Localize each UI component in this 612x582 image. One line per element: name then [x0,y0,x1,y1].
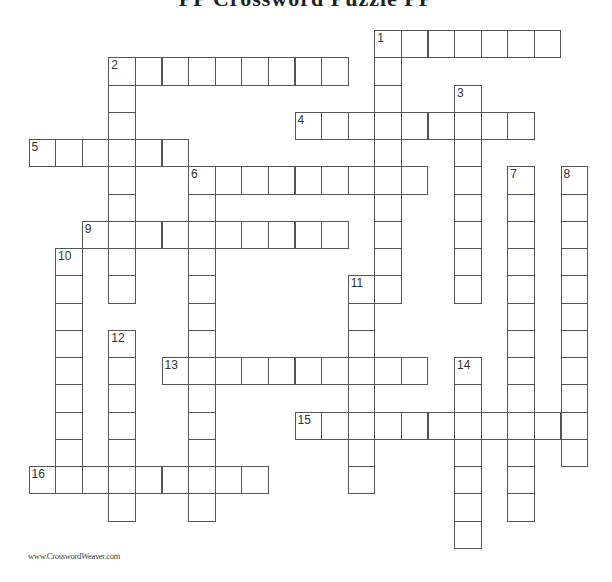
grid-cell[interactable] [82,139,110,167]
grid-cell[interactable] [401,412,429,440]
grid-cell[interactable] [454,139,482,167]
grid-cell[interactable] [348,412,376,440]
grid-cell[interactable] [374,221,402,249]
grid-cell[interactable] [561,248,589,276]
grid-cell[interactable] [561,412,589,440]
grid-cell[interactable] [108,166,136,194]
grid-cell[interactable] [268,166,296,194]
grid-cell[interactable] [135,57,163,85]
grid-cell[interactable] [507,275,535,303]
grid-cell[interactable] [428,112,456,140]
grid-cell[interactable] [108,466,136,494]
grid-cell[interactable] [561,357,589,385]
grid-cell[interactable]: 10 [55,248,83,276]
grid-cell[interactable] [561,330,589,358]
grid-cell[interactable] [268,221,296,249]
grid-cell[interactable] [295,166,323,194]
grid-cell[interactable] [268,57,296,85]
grid-cell[interactable] [401,30,429,58]
grid-cell[interactable] [454,221,482,249]
grid-cell[interactable] [162,139,190,167]
grid-cell[interactable] [401,112,429,140]
grid-cell[interactable] [507,330,535,358]
grid-cell[interactable] [454,493,482,521]
grid-cell[interactable] [188,357,216,385]
grid-cell[interactable] [561,384,589,412]
grid-cell[interactable] [507,221,535,249]
grid-cell[interactable] [348,439,376,467]
grid-cell[interactable] [108,275,136,303]
grid-cell[interactable] [534,30,562,58]
grid-cell[interactable] [55,275,83,303]
grid-cell[interactable] [55,466,83,494]
grid-cell[interactable] [401,357,429,385]
grid-cell[interactable] [108,412,136,440]
grid-cell[interactable] [108,139,136,167]
grid-cell[interactable] [348,166,376,194]
grid-cell[interactable] [188,439,216,467]
grid-cell[interactable] [321,357,349,385]
grid-cell[interactable] [507,493,535,521]
grid-cell[interactable] [55,412,83,440]
grid-cell[interactable] [188,493,216,521]
grid-cell[interactable] [108,112,136,140]
grid-cell[interactable] [507,248,535,276]
grid-cell[interactable] [454,30,482,58]
grid-cell[interactable] [295,57,323,85]
grid-cell[interactable] [454,112,482,140]
grid-cell[interactable] [454,521,482,549]
grid-cell[interactable]: 13 [162,357,190,385]
grid-cell[interactable] [215,221,243,249]
grid-cell[interactable] [241,221,269,249]
grid-cell[interactable] [374,412,402,440]
grid-cell[interactable] [188,248,216,276]
grid-cell[interactable] [162,466,190,494]
grid-cell[interactable]: 2 [108,57,136,85]
grid-cell[interactable] [108,439,136,467]
grid-cell[interactable] [561,275,589,303]
grid-cell[interactable] [348,357,376,385]
grid-cell[interactable] [268,357,296,385]
grid-cell[interactable] [108,384,136,412]
grid-cell[interactable] [561,303,589,331]
grid-cell[interactable] [241,166,269,194]
grid-cell[interactable] [534,412,562,440]
grid-cell[interactable] [374,357,402,385]
grid-cell[interactable] [481,112,509,140]
grid-cell[interactable] [108,248,136,276]
grid-cell[interactable] [321,412,349,440]
grid-cell[interactable] [162,57,190,85]
grid-cell[interactable] [295,221,323,249]
grid-cell[interactable]: 14 [454,357,482,385]
grid-cell[interactable] [374,248,402,276]
grid-cell[interactable] [215,166,243,194]
grid-cell[interactable] [321,221,349,249]
grid-cell[interactable]: 15 [295,412,323,440]
grid-cell[interactable] [162,221,190,249]
grid-cell[interactable]: 3 [454,85,482,113]
grid-cell[interactable] [321,166,349,194]
grid-cell[interactable] [55,303,83,331]
grid-cell[interactable]: 5 [29,139,57,167]
grid-cell[interactable] [188,466,216,494]
grid-cell[interactable] [454,412,482,440]
grid-cell[interactable] [374,85,402,113]
grid-cell[interactable] [374,194,402,222]
grid-cell[interactable]: 9 [82,221,110,249]
grid-cell[interactable] [454,166,482,194]
grid-cell[interactable]: 16 [29,466,57,494]
grid-cell[interactable] [241,466,269,494]
grid-cell[interactable] [454,466,482,494]
grid-cell[interactable] [507,439,535,467]
grid-cell[interactable] [188,330,216,358]
grid-cell[interactable] [454,248,482,276]
grid-cell[interactable] [108,85,136,113]
grid-cell[interactable] [507,357,535,385]
grid-cell[interactable] [561,221,589,249]
grid-cell[interactable] [454,194,482,222]
grid-cell[interactable] [348,466,376,494]
grid-cell[interactable] [374,57,402,85]
grid-cell[interactable] [561,194,589,222]
grid-cell[interactable] [348,303,376,331]
grid-cell[interactable] [507,112,535,140]
